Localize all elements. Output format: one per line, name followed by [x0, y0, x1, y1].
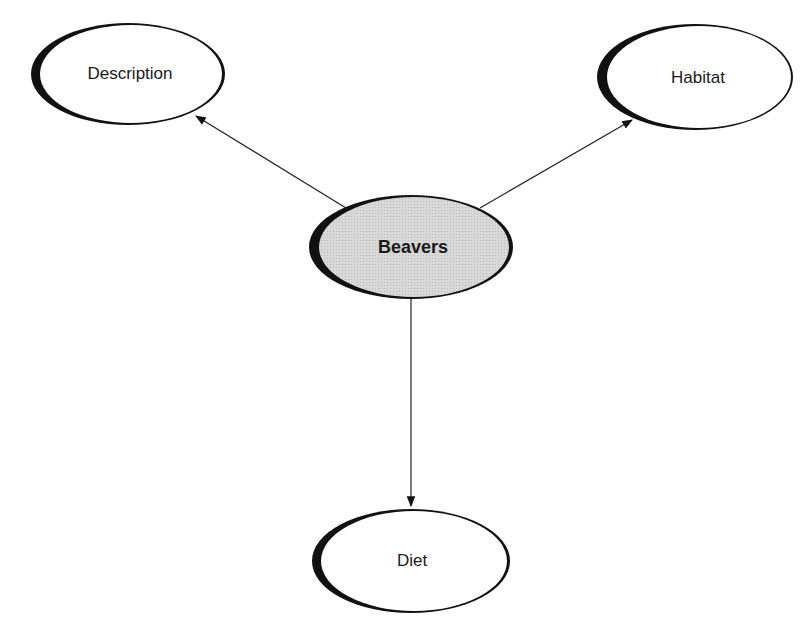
edge-beavers-habitat [480, 120, 632, 208]
concept-map-canvas [0, 0, 806, 627]
node-label-habitat: Habitat [671, 68, 725, 88]
node-label-beavers: Beavers [378, 237, 448, 258]
edge-beavers-description [196, 116, 346, 208]
node-label-description: Description [87, 64, 172, 84]
node-label-diet: Diet [397, 551, 427, 571]
